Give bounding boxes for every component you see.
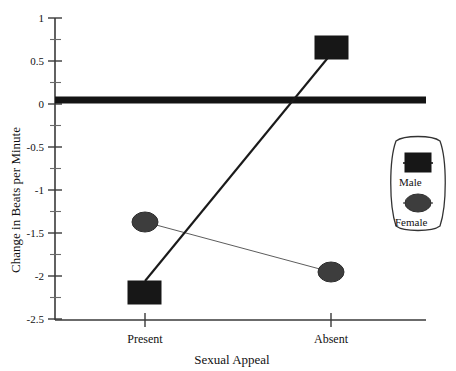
legend: Male Female [391,137,446,231]
y-tick-label: 0.5 [30,55,44,67]
chart-container: 1 0.5 0 -0.5 -1 -1.5 -2 -2.5 Change in B… [0,0,456,371]
y-tick-label: 0 [39,98,45,110]
data-point-female-absent [318,262,344,282]
y-tick-label: -2.5 [27,313,45,325]
y-tick-labels: 1 0.5 0 -0.5 -1 -1.5 -2 -2.5 [27,12,45,325]
data-point-male-absent [315,36,348,59]
y-tick-label: -2 [35,270,44,282]
y-tick-label: -1 [35,184,44,196]
x-tick-label-present: Present [127,332,163,346]
axis-group [55,18,426,320]
x-axis-title: Sexual Appeal [194,352,270,367]
x-tick-label-absent: Absent [314,332,349,346]
series-male [128,36,348,304]
y-tick-label: -0.5 [27,141,45,153]
series-female [132,212,344,282]
chart-svg: 1 0.5 0 -0.5 -1 -1.5 -2 -2.5 Change in B… [0,0,456,371]
y-axis-title: Change in Beats per Minute [8,127,23,273]
legend-female-marker [405,194,431,212]
legend-female-label: Female [395,216,427,228]
data-point-female-present [132,212,158,232]
y-tick-label: 1 [39,12,45,24]
y-tick-label: -1.5 [27,227,45,239]
legend-male-marker [405,153,431,172]
legend-male-label: Male [399,176,422,188]
data-point-male-present [128,281,161,304]
x-tick-labels: Present Absent [127,332,348,346]
